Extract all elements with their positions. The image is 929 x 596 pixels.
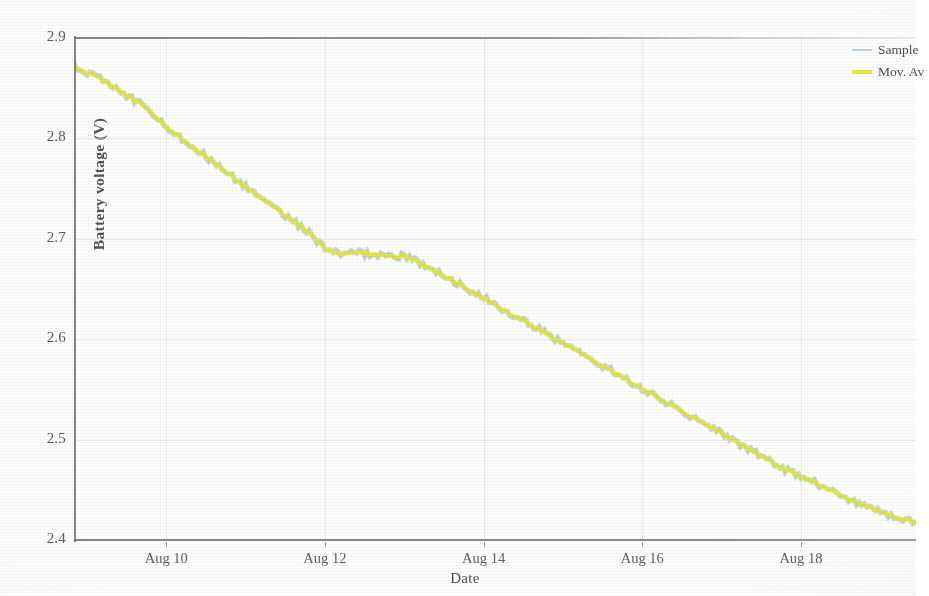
axis-line-left — [74, 36, 76, 542]
legend-swatch-icon-mov-av — [852, 70, 872, 74]
x-tick-mark — [166, 542, 167, 547]
gridline-horizontal — [75, 339, 916, 340]
series-line-sample — [75, 65, 916, 523]
legend-swatch-icon-sample — [852, 49, 872, 51]
gridline-vertical — [642, 38, 643, 540]
plot-area — [75, 38, 916, 540]
y-tick-label: 2.8 — [20, 128, 66, 145]
legend-item-mov-av: Mov. Av — [852, 62, 929, 82]
gridline-horizontal — [75, 138, 916, 139]
x-tick-label: Aug 12 — [285, 550, 365, 567]
legend-item-sample: Sample — [852, 40, 929, 60]
y-tick-label: 2.5 — [20, 430, 66, 447]
gridline-vertical — [484, 38, 485, 540]
y-tick-label: 2.7 — [20, 229, 66, 246]
x-axis-title: Date — [420, 570, 510, 587]
x-tick-label: Aug 14 — [444, 550, 524, 567]
x-tick-label: Aug 18 — [761, 550, 841, 567]
gridline-vertical — [801, 38, 802, 540]
axis-line-bottom — [74, 539, 916, 541]
series-line-mov-av-core — [75, 66, 916, 523]
x-tick-mark — [801, 542, 802, 547]
gridline-vertical — [166, 38, 167, 540]
y-tick-label: 2.9 — [20, 28, 66, 45]
data-series-layer — [75, 38, 916, 540]
gridline-horizontal — [75, 239, 916, 240]
legend-label-sample: Sample — [878, 42, 919, 58]
x-tick-mark — [642, 542, 643, 547]
x-tick-label: Aug 16 — [602, 550, 682, 567]
series-line-sample-halo — [75, 65, 916, 523]
chart-legend: Sample Mov. Av — [852, 40, 929, 84]
x-tick-label: Aug 10 — [126, 550, 206, 567]
gridline-horizontal — [75, 440, 916, 441]
series-line-mov-av — [75, 66, 916, 523]
gridline-vertical — [325, 38, 326, 540]
y-tick-label: 2.4 — [20, 530, 66, 547]
legend-label-mov-av: Mov. Av — [878, 64, 924, 80]
x-tick-mark — [484, 542, 485, 547]
y-tick-label: 2.6 — [20, 329, 66, 346]
x-tick-mark — [325, 542, 326, 547]
axis-line-top — [74, 37, 916, 39]
